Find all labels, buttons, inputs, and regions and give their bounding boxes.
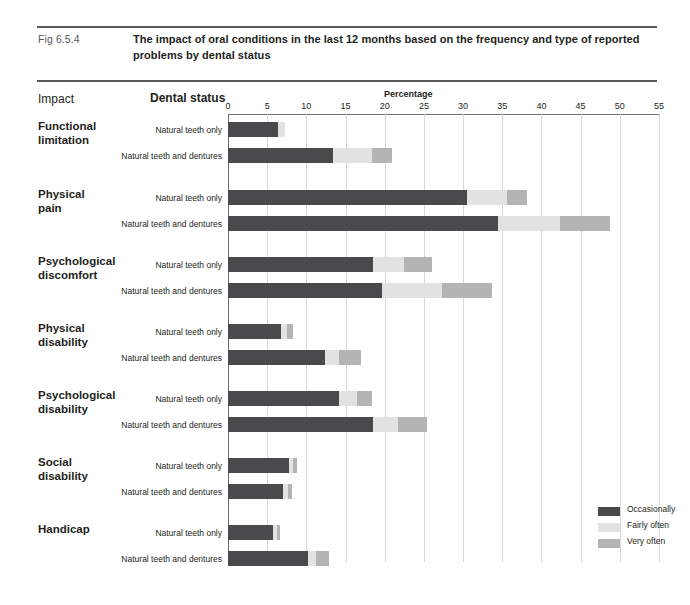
bar-segment-fairly-often [278, 122, 285, 137]
bar-segment-fairly-often [339, 391, 356, 406]
bar-segment-occasionally [228, 122, 278, 137]
dental-status-row-label: Natural teeth only [76, 461, 222, 471]
figure-number: Fig 6.5.4 [38, 33, 80, 45]
bar-segment-very-often [357, 391, 373, 406]
legend-label: Occasionally [627, 504, 675, 514]
gridline [541, 114, 542, 562]
bar-segment-occasionally [228, 283, 382, 298]
stacked-bar [228, 391, 372, 406]
dental-status-row-label: Natural teeth only [76, 528, 222, 538]
gridline [385, 114, 386, 562]
axis-title-percentage: Percentage [384, 89, 433, 99]
bar-segment-very-often [398, 417, 427, 432]
stacked-bar [228, 148, 392, 163]
stacked-bar [228, 350, 361, 365]
stacked-bar [228, 525, 280, 540]
dental-status-row-label: Natural teeth and dentures [76, 286, 222, 296]
x-axis-tick-label: 25 [412, 101, 436, 111]
x-axis-tick-label: 35 [490, 101, 514, 111]
dental-status-row-label: Natural teeth only [76, 125, 222, 135]
bar-segment-occasionally [228, 551, 308, 566]
bar-segment-very-often [442, 283, 492, 298]
bar-segment-very-often [288, 484, 292, 499]
bar-segment-very-often [316, 551, 329, 566]
stacked-bar [228, 216, 610, 231]
stacked-bar [228, 190, 527, 205]
bar-segment-fairly-often [308, 551, 316, 566]
header-rule-top [37, 26, 657, 28]
x-axis-tick-label: 20 [373, 101, 397, 111]
x-axis-tick-label: 30 [451, 101, 475, 111]
bar-segment-very-often [293, 458, 297, 473]
stacked-bar [228, 257, 432, 272]
x-axis-tick-label: 55 [647, 101, 671, 111]
bar-segment-very-often [277, 525, 280, 540]
column-header-impact: Impact [38, 92, 74, 106]
bar-segment-very-often [507, 190, 527, 205]
gridline [620, 114, 621, 562]
legend-swatch [598, 507, 620, 516]
bar-segment-occasionally [228, 484, 283, 499]
bar-segment-occasionally [228, 458, 289, 473]
bar-segment-occasionally [228, 324, 281, 339]
x-axis-tick-label: 40 [529, 101, 553, 111]
bar-segment-occasionally [228, 257, 373, 272]
x-axis-tick-label: 10 [294, 101, 318, 111]
gridline [346, 114, 347, 562]
dental-status-row-label: Natural teeth and dentures [76, 554, 222, 564]
bar-segment-occasionally [228, 417, 373, 432]
dental-status-row-label: Natural teeth and dentures [76, 420, 222, 430]
bar-segment-fairly-often [373, 257, 404, 272]
bar-segment-occasionally [228, 216, 498, 231]
legend-label: Fairly often [627, 520, 669, 530]
bar-segment-fairly-often [467, 190, 507, 205]
bar-segment-occasionally [228, 391, 339, 406]
bar-segment-occasionally [228, 148, 333, 163]
bar-segment-fairly-often [333, 148, 372, 163]
stacked-bar [228, 283, 492, 298]
stacked-bar [228, 122, 285, 137]
bar-segment-very-often [404, 257, 431, 272]
gridline [581, 114, 582, 562]
bar-segment-very-often [339, 350, 361, 365]
bar-segment-occasionally [228, 350, 325, 365]
figure-page: Fig 6.5.4 The impact of oral conditions … [0, 0, 690, 605]
bar-segment-occasionally [228, 525, 273, 540]
dental-status-row-label: Natural teeth and dentures [76, 151, 222, 161]
bar-segment-very-often [287, 324, 293, 339]
x-axis-tick-label: 45 [569, 101, 593, 111]
gridline [659, 114, 660, 562]
dental-status-row-label: Natural teeth only [76, 394, 222, 404]
figure-title: The impact of oral conditions in the las… [133, 31, 653, 63]
stacked-bar [228, 551, 329, 566]
bar-segment-fairly-often [382, 283, 442, 298]
gridline [424, 114, 425, 562]
x-axis-tick-label: 0 [216, 101, 240, 111]
bar-segment-very-often [372, 148, 392, 163]
bar-segment-fairly-often [373, 417, 398, 432]
axis-top-line [228, 114, 659, 115]
x-axis-tick-label: 50 [608, 101, 632, 111]
dental-status-row-label: Natural teeth only [76, 193, 222, 203]
x-axis-tick-label: 15 [334, 101, 358, 111]
bar-segment-occasionally [228, 190, 467, 205]
stacked-bar [228, 417, 427, 432]
legend-swatch [598, 523, 620, 532]
bar-segment-very-often [560, 216, 609, 231]
column-header-dental-status: Dental status [150, 91, 225, 105]
x-axis-tick-label: 5 [255, 101, 279, 111]
bar-segment-fairly-often [325, 350, 339, 365]
gridline [306, 114, 307, 562]
dental-status-row-label: Natural teeth only [76, 260, 222, 270]
stacked-bar [228, 458, 297, 473]
legend-swatch [598, 539, 620, 548]
stacked-bar [228, 484, 292, 499]
stacked-bar [228, 324, 293, 339]
dental-status-row-label: Natural teeth and dentures [76, 353, 222, 363]
dental-status-row-label: Natural teeth and dentures [76, 487, 222, 497]
header-rule-bottom [37, 80, 657, 82]
legend-label: Very often [627, 536, 665, 546]
bar-segment-fairly-often [498, 216, 560, 231]
dental-status-row-label: Natural teeth and dentures [76, 219, 222, 229]
dental-status-row-label: Natural teeth only [76, 327, 222, 337]
